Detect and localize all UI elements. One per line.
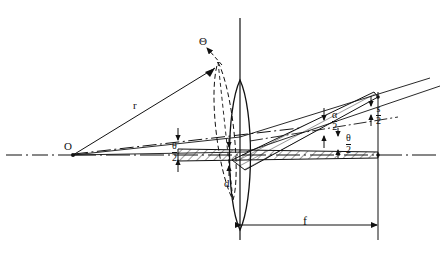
- half-theta-left-numerator: θ: [172, 141, 177, 151]
- half-spot-denominator: 2: [376, 116, 381, 126]
- half-alpha-numerator: α: [332, 110, 337, 120]
- label-tilt-angle: Θ: [199, 36, 207, 47]
- label-half-alpha: α 2: [332, 110, 337, 133]
- ray-bundle: [71, 68, 440, 157]
- label-aperture: d: [224, 178, 230, 189]
- half-alpha-denominator: 2: [332, 122, 337, 132]
- half-theta-left-denominator: 2: [172, 153, 177, 163]
- origin-point: [71, 153, 75, 157]
- half-theta-right-denominator: 2: [346, 145, 351, 155]
- diagram-canvas: [0, 0, 446, 254]
- label-half-theta-left: θ 2: [172, 141, 177, 164]
- label-origin: O: [64, 141, 72, 152]
- ray-arrowhead: [205, 68, 215, 77]
- half-theta-right-numerator: θ: [346, 133, 351, 143]
- theta-arrow: [207, 48, 222, 65]
- label-focal-length: f: [303, 215, 307, 227]
- label-half-spot: s 2: [376, 104, 381, 127]
- optics-ray-diagram: O r Θ d f θ 2 α 2 θ 2 s 2: [0, 0, 446, 254]
- half-spot-numerator: s: [376, 104, 381, 114]
- label-radius: r: [133, 100, 137, 111]
- label-half-theta-right: θ 2: [346, 133, 351, 156]
